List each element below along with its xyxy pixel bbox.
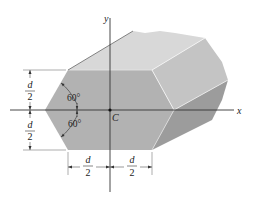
hexagon-prism-diagram: x y C d 2 d 2 60° 60° d 2 d 2 <box>0 0 261 205</box>
dim-lower-denominator: 2 <box>28 131 33 142</box>
dim-right-numerator: d <box>130 154 136 165</box>
arrow-down-mid <box>29 106 32 110</box>
dim-right-denominator: 2 <box>130 167 135 178</box>
x-axis-label: x <box>236 105 242 116</box>
centroid-label: C <box>112 112 119 123</box>
arrow-up-top <box>29 70 32 74</box>
angle-label-lower: 60° <box>68 119 82 129</box>
dim-left-numerator: d <box>86 154 92 165</box>
dim-upper-denominator: 2 <box>28 91 33 102</box>
dim-left-denominator: 2 <box>86 167 91 178</box>
y-axis-label: y <box>103 13 109 24</box>
arrow-down-bottom <box>29 146 32 150</box>
arrow-up-mid <box>29 110 32 114</box>
angle-label-upper: 60° <box>67 93 81 103</box>
